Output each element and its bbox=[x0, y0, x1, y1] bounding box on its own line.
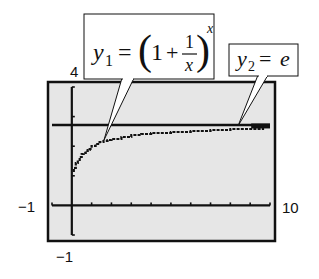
ymin-label: −1 bbox=[56, 248, 73, 265]
callout-y1-frac-den: x bbox=[184, 55, 193, 75]
calculator-graph: 4 −1 10 −1 y 1 = ( 1 + 1 x ) x y 2 = e bbox=[0, 0, 319, 279]
graph-screen bbox=[48, 82, 275, 241]
xmin-label: −1 bbox=[18, 198, 35, 215]
callout-y2-sub: 2 bbox=[248, 59, 255, 74]
ymax-label: 4 bbox=[70, 63, 78, 80]
callout-y1-equals: = bbox=[118, 39, 132, 65]
xmax-label: 10 bbox=[282, 199, 299, 216]
callout-y1-frac-num: 1 bbox=[185, 32, 194, 52]
callout-y1-plus: + bbox=[166, 40, 178, 65]
callout-y2-equals: = bbox=[259, 46, 271, 71]
y2-line-end bbox=[251, 123, 270, 128]
callout-y2-rhs: e bbox=[280, 46, 290, 71]
callout-y1-one: 1 bbox=[151, 39, 163, 65]
callout-y2-lhs: y bbox=[235, 46, 247, 71]
callout-y1-open-paren: ( bbox=[138, 27, 152, 74]
callout-y1-lhs: y bbox=[91, 39, 104, 65]
callout-y1-sub: 1 bbox=[105, 52, 113, 69]
callout-y1-exponent: x bbox=[206, 21, 214, 36]
